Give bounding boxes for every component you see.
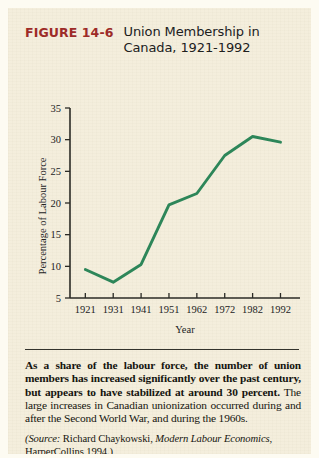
figure-header: FIGURE 14-6 Union Membership in Canada, …: [25, 24, 300, 55]
x-tick-label: 1951: [158, 304, 179, 315]
chart-svg: Percentage of Labour Force 5101520253035…: [8, 86, 311, 336]
source-prefix: (Source:: [25, 433, 60, 444]
y-tick-label: 30: [51, 134, 62, 145]
y-tick-label: 35: [51, 103, 62, 114]
y-axis-title: Percentage of Labour Force: [37, 157, 48, 274]
x-tick-label: 1921: [75, 304, 96, 315]
x-tick-label: 1962: [186, 304, 207, 315]
y-tick-label: 20: [51, 198, 62, 209]
x-tick-label: 1972: [214, 304, 235, 315]
figure-title-line-2: Canada, 1921-1992: [124, 40, 260, 56]
caption-divider: [25, 349, 299, 350]
x-axis-ticks: 19211931194119511962197219821992: [75, 293, 291, 315]
source-work-title: Modern Labour Economics: [155, 433, 269, 444]
figure-number-label: FIGURE 14-6: [25, 24, 114, 40]
x-tick-label: 1931: [103, 304, 124, 315]
x-tick-label: 1992: [270, 304, 291, 315]
source-author: Richard Chaykowski,: [60, 433, 155, 444]
x-tick-label: 1982: [242, 304, 263, 315]
y-axis-ticks: 5101520253035: [51, 103, 71, 304]
figure-caption: As a share of the labour force, the numb…: [25, 359, 301, 454]
y-tick-label: 15: [51, 229, 62, 240]
union-membership-series: [85, 137, 280, 283]
caption-text: As a share of the labour force, the numb…: [25, 359, 301, 425]
figure-title-line-1: Union Membership in: [124, 24, 260, 40]
figure-title: Union Membership in Canada, 1921-1992: [124, 24, 260, 55]
x-axis-title: Year: [175, 324, 195, 335]
source-note: (Source: Richard Chaykowski, Modern Labo…: [25, 433, 301, 454]
x-tick-label: 1941: [131, 304, 152, 315]
y-tick-label: 10: [51, 261, 62, 272]
figure-page: FIGURE 14-6 Union Membership in Canada, …: [8, 8, 311, 454]
line-chart: Percentage of Labour Force 5101520253035…: [8, 86, 311, 336]
y-tick-label: 5: [56, 293, 61, 304]
y-tick-label: 25: [51, 166, 62, 177]
caption-lead: As a share of the labour force, the numb…: [25, 359, 301, 398]
